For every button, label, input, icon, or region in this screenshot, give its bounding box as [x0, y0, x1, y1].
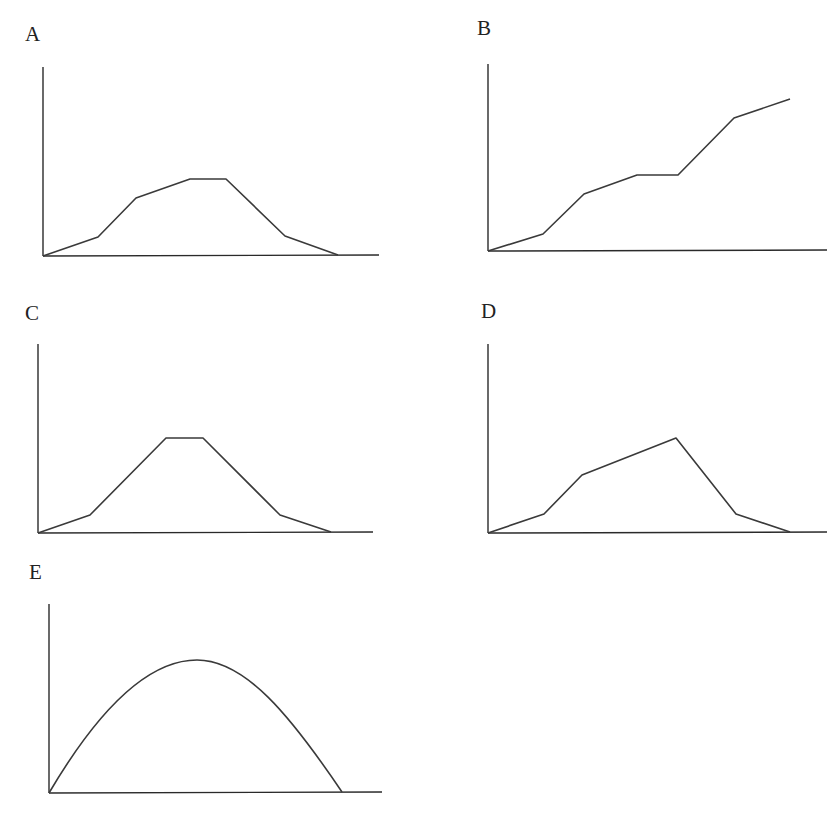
data-line — [488, 438, 790, 533]
panel-label-b: B — [477, 18, 491, 39]
chart-panel-c — [38, 344, 373, 533]
chart-panel-d — [488, 344, 827, 533]
data-line — [38, 438, 331, 533]
data-line — [49, 660, 342, 793]
panel-label-d: D — [481, 301, 496, 322]
x-axis — [488, 532, 827, 533]
data-line — [43, 179, 338, 256]
chart-panel-b — [488, 64, 827, 251]
x-axis — [38, 532, 373, 533]
x-axis — [43, 255, 379, 256]
chart-panel-a — [43, 67, 379, 256]
figure-canvas — [0, 0, 838, 820]
panel-label-c: C — [25, 303, 39, 324]
panel-label-e: E — [29, 562, 42, 583]
data-line — [488, 99, 790, 251]
chart-panel-e — [49, 604, 382, 793]
x-axis — [488, 250, 827, 251]
x-axis — [49, 792, 382, 793]
panel-label-a: A — [25, 24, 40, 45]
